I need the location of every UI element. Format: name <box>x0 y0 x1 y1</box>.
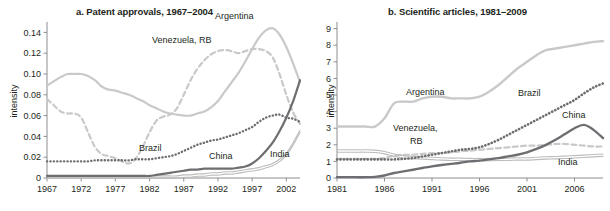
panel-b-xtick-1: 1986 <box>374 184 394 194</box>
panel-a-ytick-7: 0.14 <box>23 28 41 38</box>
panel-b-ytick-7: 7 <box>326 57 331 67</box>
panel-b-ytick-1: 1 <box>326 157 331 167</box>
brazil-label: Brazil <box>139 143 162 153</box>
china-label: China <box>209 151 233 161</box>
panel-b-ytick-5: 5 <box>326 90 331 100</box>
panel-b-ytick-3: 3 <box>326 123 331 133</box>
panel-a-xtick-1: 1972 <box>71 184 91 194</box>
india-label: India <box>270 149 290 159</box>
panel-a-ytick-1: 0.02 <box>23 152 41 162</box>
venezuela-label-line1: Venezuela, <box>393 123 438 133</box>
panel-b-xtick-5: 2006 <box>564 184 584 194</box>
panel-b-ytick-8: 8 <box>326 40 331 50</box>
panel-b-xtick-0: 1981 <box>327 184 347 194</box>
panel-a-xtick-7: 2002 <box>276 184 296 194</box>
panel-scientific-articles: b. Scientific articles, 1981–2009 intens… <box>305 0 610 211</box>
figure-container: a. Patent approvals, 1967–2004 intensity… <box>0 0 610 211</box>
panel-a-xtick-2: 1977 <box>105 184 125 194</box>
panel-b-ytick-4: 4 <box>326 107 331 117</box>
panel-a-ytick-0: 0 <box>36 173 41 183</box>
panel-b-xtick-3: 1996 <box>469 184 489 194</box>
india-label: India <box>558 157 578 167</box>
panel-a-ytick-3: 0.06 <box>23 111 41 121</box>
panel-b-ytick-9: 9 <box>326 24 331 34</box>
panel-b-ytick-6: 6 <box>326 74 331 84</box>
panel-b-xtick-2: 1991 <box>422 184 442 194</box>
china-label: China <box>562 110 586 120</box>
argentina-label: Argentina <box>406 87 445 97</box>
panel-a-plot: 00.020.040.060.080.100.120.1419671972197… <box>0 0 305 211</box>
brazil-label: Brazil <box>518 88 541 98</box>
panel-patent-approvals: a. Patent approvals, 1967–2004 intensity… <box>0 0 305 211</box>
panel-a-xtick-4: 1987 <box>174 184 194 194</box>
panel-b-xtick-4: 2001 <box>517 184 537 194</box>
panel-a-ytick-4: 0.08 <box>23 90 41 100</box>
panel-a-xtick-5: 1992 <box>208 184 228 194</box>
panel-b-ytick-0: 0 <box>326 173 331 183</box>
panel-a-xtick-3: 1982 <box>140 184 160 194</box>
panel-a-ytick-2: 0.04 <box>23 132 41 142</box>
panel-a-xtick-6: 1997 <box>242 184 262 194</box>
venezuela-label-line2: RB <box>410 136 423 146</box>
panel-a-ytick-6: 0.12 <box>23 48 41 58</box>
series-line-brazil <box>337 83 603 159</box>
venezuela-label: Venezuela, RB <box>152 35 212 45</box>
argentina-label: Argentina <box>215 11 254 21</box>
panel-b-ytick-2: 2 <box>326 140 331 150</box>
panel-b-plot: 0123456789198119861991199620012006Argent… <box>305 0 610 211</box>
series-line-venezuela-rb <box>47 49 300 164</box>
panel-a-xtick-0: 1967 <box>37 184 57 194</box>
panel-a-ytick-5: 0.10 <box>23 69 41 79</box>
